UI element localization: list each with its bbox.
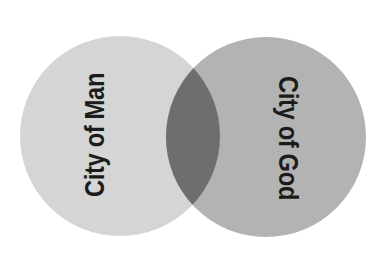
venn-diagram-canvas xyxy=(0,0,385,270)
venn-diagram: City of Man City of God xyxy=(0,0,385,270)
set-label-city-of-man: City of Man xyxy=(82,73,109,197)
set-label-city-of-god: City of God xyxy=(274,76,301,200)
